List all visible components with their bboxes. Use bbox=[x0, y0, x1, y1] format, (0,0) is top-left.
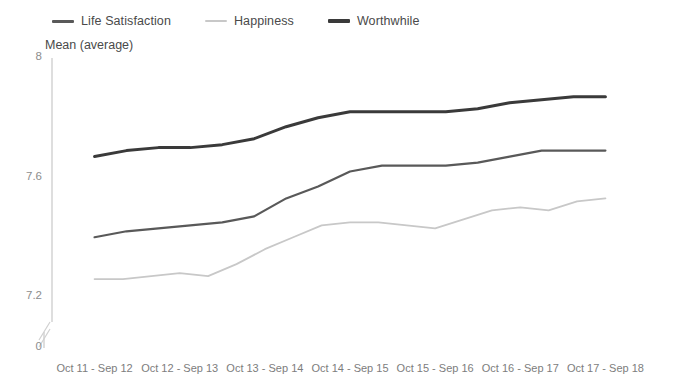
line-chart: Mean (average) 87.67.20 Oct 11 - Sep 12O… bbox=[0, 0, 679, 390]
x-tick-label: Oct 15 - Sep 16 bbox=[393, 362, 478, 374]
x-tick-label: Oct 12 - Sep 13 bbox=[137, 362, 222, 374]
chart-canvas bbox=[0, 0, 679, 390]
series-line-life-satisfaction[interactable] bbox=[95, 151, 606, 238]
x-tick-label: Oct 16 - Sep 17 bbox=[478, 362, 563, 374]
x-tick-label: Oct 11 - Sep 12 bbox=[52, 362, 137, 374]
data-series-group bbox=[95, 97, 606, 279]
series-line-happiness[interactable] bbox=[95, 198, 606, 279]
x-tick-label: Oct 14 - Sep 15 bbox=[307, 362, 392, 374]
y-tick-label: 8 bbox=[0, 50, 42, 62]
y-axis bbox=[39, 58, 52, 348]
y-tick-label: 7.2 bbox=[0, 289, 42, 301]
series-line-worthwhile[interactable] bbox=[95, 97, 606, 157]
y-tick-label: 7.6 bbox=[0, 170, 42, 182]
x-tick-label: Oct 13 - Sep 14 bbox=[222, 362, 307, 374]
y-tick-label: 0 bbox=[0, 340, 42, 352]
x-tick-label: Oct 17 - Sep 18 bbox=[563, 362, 648, 374]
